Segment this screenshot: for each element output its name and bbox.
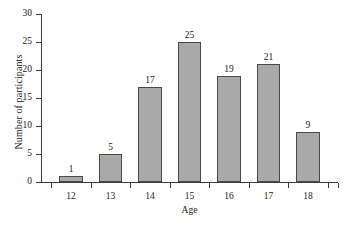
y-axis-tick	[36, 126, 41, 127]
x-axis-tick	[209, 183, 210, 188]
y-axis-tick-label: 25	[4, 37, 32, 47]
y-axis-tick-label: 20	[4, 65, 32, 75]
y-axis-tick	[36, 98, 41, 99]
x-axis-tick	[249, 183, 250, 188]
bar	[217, 76, 241, 182]
bar	[138, 87, 162, 182]
y-axis-tick	[36, 42, 41, 43]
x-axis-tick	[328, 183, 329, 188]
bar-value-label: 19	[209, 64, 249, 74]
bar-value-label: 5	[91, 142, 131, 152]
x-axis-tick	[130, 183, 131, 188]
y-axis-tick	[36, 70, 41, 71]
bar	[59, 176, 83, 182]
y-axis-tick-label: 30	[4, 9, 32, 19]
x-axis-tick	[170, 183, 171, 188]
x-axis-tick	[338, 183, 339, 188]
y-axis-tick	[36, 154, 41, 155]
y-axis-tick-label: 0	[4, 177, 32, 187]
x-axis-tick-label: 13	[91, 191, 131, 202]
x-axis-title: Age	[170, 205, 210, 216]
y-axis-tick-label: 15	[4, 93, 32, 103]
x-axis-tick-label: 15	[170, 191, 210, 202]
bar-value-label: 17	[130, 75, 170, 85]
x-axis-tick-label: 18	[288, 191, 328, 202]
bar-value-label: 25	[170, 30, 210, 40]
x-axis-tick	[91, 183, 92, 188]
y-axis-tick-label: 5	[4, 149, 32, 159]
y-axis-tick	[36, 14, 41, 15]
x-axis-tick-label: 16	[209, 191, 249, 202]
x-axis-tick-label: 17	[248, 191, 288, 202]
bar-value-label: 1	[51, 164, 91, 174]
bar	[296, 132, 320, 182]
x-axis-tick-label: 14	[130, 191, 170, 202]
x-axis-tick	[288, 183, 289, 188]
x-axis-line	[41, 182, 338, 183]
bar-value-label: 9	[288, 120, 328, 130]
bar	[178, 42, 202, 182]
bar	[257, 64, 281, 182]
bar	[99, 154, 123, 182]
bar-value-label: 21	[248, 52, 288, 62]
bar-chart: Number of participants 05101520253011251…	[0, 0, 350, 225]
y-axis-tick	[36, 182, 41, 183]
x-axis-tick-label: 12	[51, 191, 91, 202]
y-axis-tick-label: 10	[4, 121, 32, 131]
x-axis-tick	[51, 183, 52, 188]
